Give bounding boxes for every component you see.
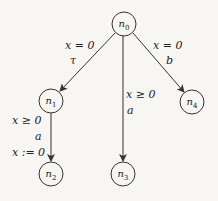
edge-n0-n1-guard: x = 0 [65, 40, 94, 51]
node-label-n3: n3 [111, 169, 135, 182]
edge-n0-n3-guard: x ≥ 0 [126, 89, 155, 100]
edge-n0-n4-guard: x = 0 [153, 40, 182, 51]
edge-n1-n2-reset: x := 0 [12, 147, 45, 158]
diagram-canvas: n0 n1 n2 n3 n4 x = 0 τ x ≥ 0 a x = 0 b x… [0, 0, 218, 201]
edge-n0-n3-action: a [127, 105, 134, 116]
node-label-n0: n0 [112, 19, 136, 32]
edge-n1-n2-guard: x ≥ 0 [12, 115, 41, 126]
node-label-n1: n1 [39, 96, 63, 109]
node-label-n4: n4 [180, 97, 204, 110]
edge-n0-n4-action: b [166, 55, 173, 66]
edge-n1-n2-action: a [35, 131, 42, 142]
edge-n0-n1-action: τ [70, 55, 76, 66]
node-label-n2: n2 [39, 169, 63, 182]
